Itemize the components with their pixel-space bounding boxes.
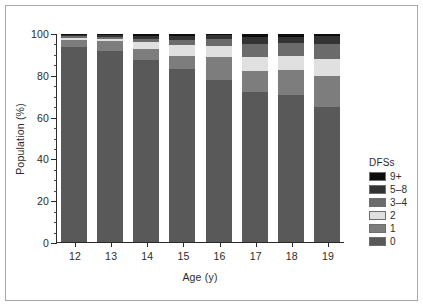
x-tick-label-15: 15 xyxy=(177,250,189,262)
x-tick-17 xyxy=(256,242,257,247)
bar-segment-age-17-dfs-2 xyxy=(242,57,268,72)
bar-segment-age-14-dfs-1 xyxy=(133,49,159,60)
x-tick-12 xyxy=(75,242,76,247)
bar-segment-age-17-dfs-3-4 xyxy=(242,44,268,56)
chart-figure: Population (%) 020406080100 121314151617… xyxy=(0,0,423,306)
legend-item-5-8: 5–8 xyxy=(369,184,417,196)
bar-segment-age-17-dfs-0 xyxy=(242,92,268,242)
legend-label-1: 1 xyxy=(390,223,396,234)
x-tick-label-16: 16 xyxy=(214,250,226,262)
bar-segment-age-17-dfs-1 xyxy=(242,71,268,92)
bar-segment-age-19-dfs-5-8 xyxy=(314,36,340,44)
bar-column-age-14 xyxy=(133,34,159,242)
legend-label-5-8: 5–8 xyxy=(390,184,407,195)
bar-column-age-19 xyxy=(314,34,340,242)
bar-segment-age-18-dfs-1 xyxy=(278,70,304,95)
legend-label-3-4: 3–4 xyxy=(390,197,407,208)
y-tick-0 xyxy=(51,243,57,244)
legend-item-1: 1 xyxy=(369,223,417,235)
x-tick-label-14: 14 xyxy=(141,250,153,262)
x-tick-label-13: 13 xyxy=(105,250,117,262)
bar-segment-age-18-dfs-0 xyxy=(278,95,304,242)
plot-area: 020406080100 1213141516171819 xyxy=(56,34,344,243)
legend-swatch-5-8 xyxy=(369,185,386,194)
bar-segment-age-15-dfs-2 xyxy=(169,45,195,55)
y-tick-label-0: 0 xyxy=(43,237,49,249)
bar-segment-age-16-dfs-0 xyxy=(206,80,232,242)
legend-item-0: 0 xyxy=(369,236,417,248)
legend-swatch-9+ xyxy=(369,172,386,181)
bar-segment-age-17-dfs-5-8 xyxy=(242,37,268,44)
stacked-bars xyxy=(57,34,344,242)
bar-segment-age-19-dfs-1 xyxy=(314,76,340,107)
bar-column-age-12 xyxy=(61,34,87,242)
legend-item-9+: 9+ xyxy=(369,171,417,183)
bar-segment-age-16-dfs-1 xyxy=(206,57,232,80)
bar-column-age-15 xyxy=(169,34,195,242)
bar-segment-age-12-dfs-1 xyxy=(61,40,87,47)
legend-item-3-4: 3–4 xyxy=(369,197,417,209)
x-tick-16 xyxy=(220,242,221,247)
x-tick-13 xyxy=(111,242,112,247)
x-tick-label-19: 19 xyxy=(322,250,334,262)
x-tick-label-17: 17 xyxy=(250,250,262,262)
bar-column-age-13 xyxy=(97,34,123,242)
y-tick-label-100: 100 xyxy=(31,28,49,40)
legend-label-2: 2 xyxy=(390,210,396,221)
legend-item-2: 2 xyxy=(369,210,417,222)
y-tick-label-60: 60 xyxy=(37,112,49,124)
legend-label-0: 0 xyxy=(390,236,396,247)
x-axis-title: Age (y) xyxy=(56,271,344,283)
bar-segment-age-12-dfs-0 xyxy=(61,47,87,242)
bar-column-age-16 xyxy=(206,34,232,242)
legend-swatch-0 xyxy=(369,237,386,246)
bar-segment-age-13-dfs-1 xyxy=(97,41,123,50)
x-tick-18 xyxy=(292,242,293,247)
y-axis-title: Population (%) xyxy=(13,34,27,243)
legend-swatch-2 xyxy=(369,211,386,220)
bar-segment-age-13-dfs-0 xyxy=(97,51,123,242)
bar-segment-age-19-dfs-0 xyxy=(314,107,340,242)
legend-swatch-1 xyxy=(369,224,386,233)
y-tick-label-40: 40 xyxy=(37,153,49,165)
y-tick-label-80: 80 xyxy=(37,70,49,82)
y-tick-label-20: 20 xyxy=(37,195,49,207)
bar-column-age-18 xyxy=(278,34,304,242)
bar-segment-age-14-dfs-0 xyxy=(133,60,159,242)
bar-segment-age-16-dfs-2 xyxy=(206,46,232,56)
bar-segment-age-15-dfs-1 xyxy=(169,56,195,70)
bar-segment-age-16-dfs-3-4 xyxy=(206,39,232,46)
legend-swatch-3-4 xyxy=(369,198,386,207)
x-tick-label-12: 12 xyxy=(69,250,81,262)
legend: DFSs 9+5–83–4210 xyxy=(369,157,417,249)
y-axis-title-label: Population (%) xyxy=(14,103,26,175)
legend-items: 9+5–83–4210 xyxy=(369,171,417,248)
bar-segment-age-19-dfs-2 xyxy=(314,59,340,76)
x-tick-19 xyxy=(328,242,329,247)
legend-title: DFSs xyxy=(369,157,417,168)
x-tick-label-18: 18 xyxy=(286,250,298,262)
bar-segment-age-15-dfs-0 xyxy=(169,69,195,242)
legend-label-9+: 9+ xyxy=(390,171,402,182)
bar-column-age-17 xyxy=(242,34,268,242)
bar-segment-age-19-dfs-3-4 xyxy=(314,44,340,59)
bar-segment-age-18-dfs-3-4 xyxy=(278,43,304,55)
x-tick-15 xyxy=(183,242,184,247)
x-tick-14 xyxy=(147,242,148,247)
bar-segment-age-18-dfs-2 xyxy=(278,56,304,71)
